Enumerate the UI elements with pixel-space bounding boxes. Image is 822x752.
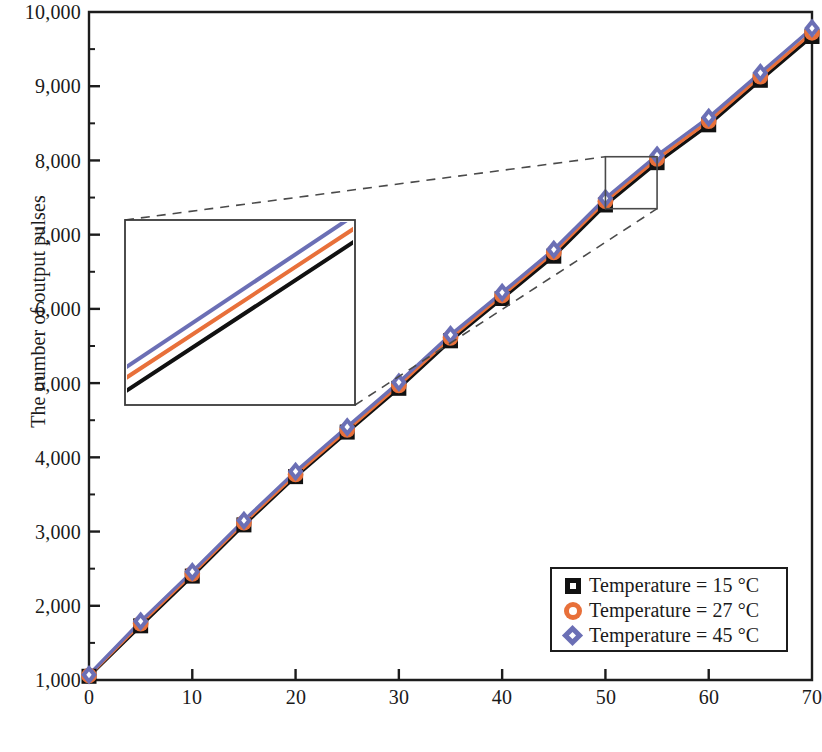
legend-item[interactable]: Temperature = 27 °C [562,598,774,623]
x-axis-ticks [192,669,708,680]
square-marker-icon [562,575,584,597]
circle-marker-icon [562,600,584,622]
legend: Temperature = 15 °C Temperature = 27 °C … [550,567,788,652]
legend-item-label: Temperature = 27 °C [589,599,759,622]
inset-connector-line [125,157,605,220]
legend-item[interactable]: Temperature = 45 °C [562,623,774,648]
inset-connector-line [355,209,657,405]
legend-item[interactable]: Temperature = 15 °C [562,573,774,598]
y-axis-ticks [89,49,100,643]
legend-item-label: Temperature = 45 °C [589,624,759,647]
diamond-marker-icon [562,625,584,647]
inset-box [125,220,355,405]
legend-item-label: Temperature = 15 °C [589,574,759,597]
